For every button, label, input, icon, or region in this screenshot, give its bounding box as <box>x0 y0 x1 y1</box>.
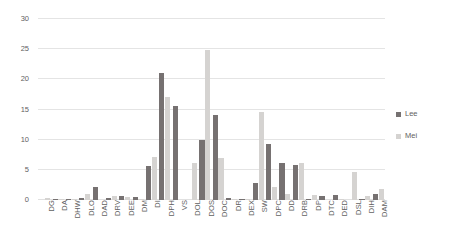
bar-group <box>318 19 331 200</box>
x-axis-tick-label: DRV <box>114 200 122 216</box>
x-axis-tick-label: DLO <box>88 200 96 216</box>
y-axis-tick-label: 5 <box>25 166 29 174</box>
bar-mei-drb <box>299 163 304 200</box>
bar-lee-sw <box>253 183 258 200</box>
x-axis-tick-label: DTC <box>328 200 336 216</box>
legend-swatch-icon <box>396 134 401 139</box>
bar-group <box>118 19 131 200</box>
bar-group <box>105 19 118 200</box>
bar-group <box>185 19 198 200</box>
x-axis-tick-label: DOC <box>221 200 229 217</box>
bar-group <box>345 19 358 200</box>
bar-lee-vs <box>173 106 178 200</box>
bar-lee-drb <box>293 165 298 200</box>
bar-group <box>292 19 305 200</box>
x-axis-tick-label: DIH <box>368 200 376 213</box>
bar-group <box>358 19 371 200</box>
x-axis-tick-label: DPC <box>275 200 283 216</box>
y-axis-tick-label: 15 <box>21 106 29 114</box>
bar-group <box>265 19 278 200</box>
bar-mei-dos <box>205 50 210 200</box>
bar-mei-di <box>152 157 157 200</box>
x-axis-tick-label: DPH <box>168 200 176 216</box>
bar-lee-dph <box>159 73 164 200</box>
bar-group <box>158 19 171 200</box>
x-axis-tick-label: DA <box>61 200 69 211</box>
bar-group <box>212 19 225 200</box>
bar-lee-dos <box>199 140 204 200</box>
bar-group <box>131 19 144 200</box>
bar-group <box>145 19 158 200</box>
bar-group <box>278 19 291 200</box>
x-axis-tick-label: DED <box>341 200 349 216</box>
bar-group <box>78 19 91 200</box>
bar-group <box>51 19 64 200</box>
legend-label: Lee <box>405 110 418 118</box>
x-axis-tick-label: DM <box>141 200 149 212</box>
bar-mei-dol <box>192 163 197 200</box>
legend-swatch-icon <box>396 112 401 117</box>
x-axis-tick-label: DEE <box>128 200 136 216</box>
y-axis-tick-label: 30 <box>21 15 29 23</box>
x-axis-tick-label: DSL <box>355 200 363 215</box>
y-axis-tick-label: 0 <box>25 196 29 204</box>
bar-mei-doc <box>218 158 223 200</box>
bar-group <box>372 19 385 200</box>
legend-item-mei[interactable]: Mei <box>396 128 451 144</box>
x-axis-tick-label: DEX <box>248 200 256 216</box>
bar-mei-dph <box>165 97 170 200</box>
x-axis-tick-label: DD <box>288 200 296 211</box>
bars-layer <box>38 19 385 200</box>
x-axis-tick-label: DOS <box>208 200 216 217</box>
x-axis-tick-label: DOL <box>194 200 202 216</box>
chart-legend: LeeMei <box>396 106 451 150</box>
x-axis: DGDADHWDLODADDRVDEEDMDIDPHVSDOLDOSDOCDRD… <box>38 200 385 243</box>
bar-group <box>198 19 211 200</box>
bar-lee-dd <box>279 163 284 200</box>
bar-lee-di <box>146 166 151 200</box>
y-axis-tick-label: 25 <box>21 45 29 53</box>
bar-group <box>305 19 318 200</box>
bar-mei-dam <box>379 189 384 200</box>
bar-mei-sw <box>259 112 264 200</box>
x-axis-tick-label: DR <box>235 200 243 211</box>
x-axis-tick-label: DAM <box>381 200 389 217</box>
x-axis-tick-label: DI <box>154 200 162 208</box>
bar-group <box>332 19 345 200</box>
bar-group <box>238 19 251 200</box>
x-axis-tick-label: DP <box>315 200 323 211</box>
legend-label: Mei <box>405 132 417 140</box>
bar-group <box>65 19 78 200</box>
bar-group <box>225 19 238 200</box>
y-axis: 051015202530 <box>0 19 34 200</box>
x-axis-tick-label: SW <box>261 200 269 212</box>
x-axis-tick-label: DHW <box>74 200 82 218</box>
bar-lee-dpc <box>266 144 271 200</box>
bar-lee-dad <box>93 187 98 200</box>
bar-mei-dpc <box>272 187 277 200</box>
bar-chart: 051015202530 DGDADHWDLODADDRVDEEDMDIDPHV… <box>0 0 451 243</box>
y-axis-tick-label: 20 <box>21 76 29 84</box>
bar-group <box>91 19 104 200</box>
bar-group <box>252 19 265 200</box>
bar-lee-doc <box>213 115 218 200</box>
x-axis-tick-label: VS <box>181 200 189 210</box>
legend-item-lee[interactable]: Lee <box>396 106 451 122</box>
bar-group <box>171 19 184 200</box>
y-axis-tick-label: 10 <box>21 136 29 144</box>
bar-mei-dsl <box>352 172 357 200</box>
x-axis-tick-label: DRB <box>301 200 309 216</box>
x-axis-tick-label: DG <box>48 200 56 211</box>
x-axis-tick-label: DAD <box>101 200 109 216</box>
bar-group <box>38 19 51 200</box>
